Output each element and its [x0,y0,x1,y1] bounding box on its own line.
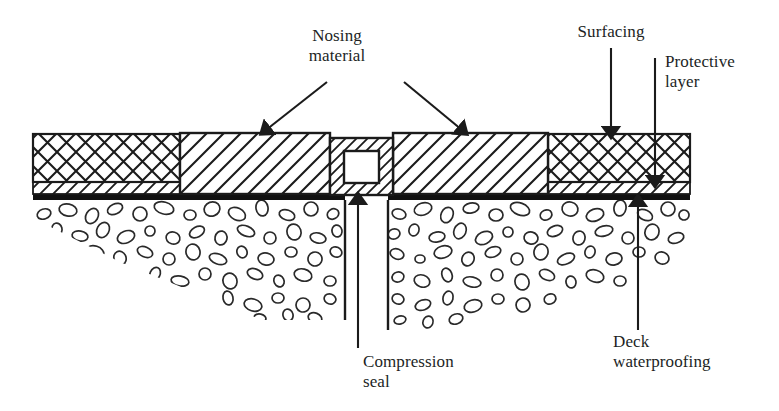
aggregate-right [387,199,690,329]
aggregate-left [31,199,344,325]
leader-nosing-left [266,82,327,130]
compression-seal [330,138,393,195]
leader-nosing-right [404,82,462,130]
diagram-canvas: Nosing material Surfacing Protective lay… [0,0,779,411]
label-protective-layer: Protective layer [665,52,773,92]
concrete-deck [31,199,690,330]
label-deck-waterproofing: Deck waterproofing [613,332,763,372]
label-nosing-material: Nosing material [282,26,392,66]
label-surfacing: Surfacing [555,22,667,42]
label-compression-seal: Compression seal [363,352,503,392]
